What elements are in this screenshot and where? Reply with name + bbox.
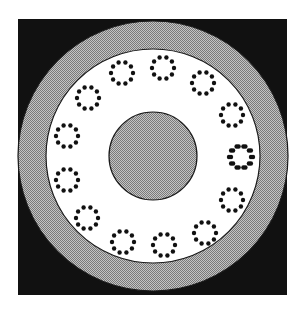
- dot: [61, 167, 65, 171]
- dot: [74, 127, 78, 131]
- dot: [206, 241, 210, 245]
- dot: [204, 70, 208, 74]
- dot: [241, 198, 245, 202]
- dot: [172, 66, 176, 70]
- dot: [153, 249, 157, 253]
- dot: [239, 191, 243, 195]
- dot: [111, 77, 115, 81]
- dot: [239, 204, 243, 208]
- dot: [210, 74, 214, 78]
- dot: [124, 229, 128, 233]
- dot: [249, 148, 253, 152]
- dot: [229, 155, 233, 159]
- dot: [150, 66, 154, 70]
- dot: [194, 237, 198, 241]
- dot: [251, 155, 255, 159]
- dot: [249, 161, 253, 165]
- dot: [206, 220, 210, 224]
- dot: [56, 127, 60, 131]
- dot: [68, 167, 72, 171]
- dot: [233, 208, 237, 212]
- dot: [74, 140, 78, 144]
- dot: [61, 188, 65, 192]
- dot: [74, 184, 78, 188]
- dot: [226, 102, 230, 106]
- dot: [164, 76, 168, 80]
- dot: [221, 204, 225, 208]
- dot: [233, 123, 237, 127]
- dot: [152, 72, 156, 76]
- dot: [112, 246, 116, 250]
- dot: [192, 87, 196, 91]
- dot: [95, 102, 99, 106]
- dot: [81, 226, 85, 230]
- dot: [56, 171, 60, 175]
- dot: [132, 240, 136, 244]
- dot: [221, 191, 225, 195]
- dot: [117, 250, 121, 254]
- dot: [124, 250, 128, 254]
- inner-gray-core: [109, 112, 197, 200]
- dot: [233, 102, 237, 106]
- dot: [82, 85, 86, 89]
- dot: [56, 184, 60, 188]
- dot: [123, 60, 127, 64]
- dot: [74, 171, 78, 175]
- dot: [153, 236, 157, 240]
- dot: [171, 249, 175, 253]
- dot: [236, 144, 240, 148]
- dot: [212, 81, 216, 85]
- dot: [194, 224, 198, 228]
- dot: [231, 161, 235, 165]
- dot: [116, 60, 120, 64]
- dot: [112, 233, 116, 237]
- dot: [226, 208, 230, 212]
- dot: [81, 205, 85, 209]
- dot: [221, 106, 225, 110]
- dot: [151, 243, 155, 247]
- dot: [75, 96, 79, 100]
- dot: [68, 144, 72, 148]
- dot: [95, 89, 99, 93]
- dot: [199, 220, 203, 224]
- dot: [76, 134, 80, 138]
- dot: [82, 106, 86, 110]
- dot: [61, 144, 65, 148]
- dot: [116, 81, 120, 85]
- dot: [192, 231, 196, 235]
- dot: [173, 243, 177, 247]
- dot: [152, 59, 156, 63]
- dot: [129, 77, 133, 81]
- dot: [131, 71, 135, 75]
- dot: [76, 222, 80, 226]
- dot: [219, 198, 223, 202]
- dot: [212, 237, 216, 241]
- dot: [54, 134, 58, 138]
- dot: [96, 216, 100, 220]
- dot: [117, 229, 121, 233]
- dot: [74, 216, 78, 220]
- dot: [221, 119, 225, 123]
- dot: [204, 91, 208, 95]
- dot: [129, 64, 133, 68]
- dot: [219, 113, 223, 117]
- dot: [243, 165, 247, 169]
- dot: [226, 123, 230, 127]
- dot: [123, 81, 127, 85]
- dot: [239, 119, 243, 123]
- dot: [111, 64, 115, 68]
- dot: [89, 106, 93, 110]
- dot: [130, 246, 134, 250]
- concentric-circle-diagram: [0, 0, 304, 310]
- dot: [68, 188, 72, 192]
- dot: [76, 178, 80, 182]
- dot: [109, 71, 113, 75]
- dot: [226, 187, 230, 191]
- dot: [210, 87, 214, 91]
- dot: [130, 233, 134, 237]
- dot: [212, 224, 216, 228]
- dot: [88, 205, 92, 209]
- dot: [77, 89, 81, 93]
- dot: [192, 74, 196, 78]
- dot: [190, 81, 194, 85]
